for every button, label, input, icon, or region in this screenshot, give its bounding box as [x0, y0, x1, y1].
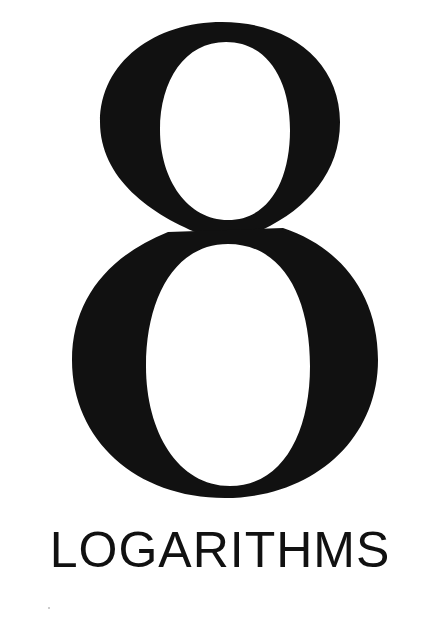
chapter-number-8: [0, 0, 440, 510]
chapter-title: LOGARITHMS: [0, 520, 440, 580]
paper-speck: [48, 607, 50, 609]
